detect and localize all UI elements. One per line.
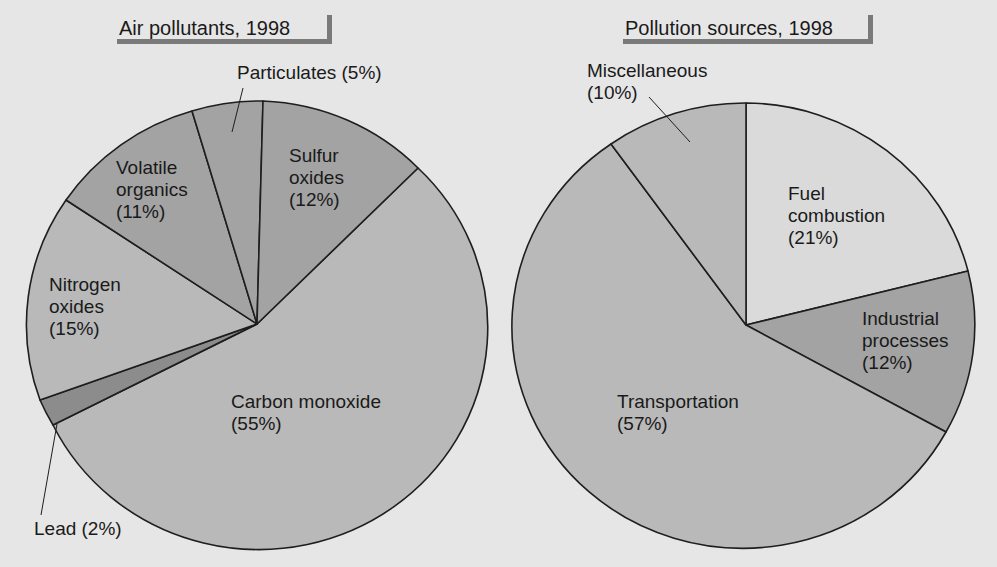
label-carbon-monoxide: Carbon monoxide (55%)	[231, 391, 381, 435]
label-line: Lead (2%)	[34, 518, 122, 540]
figure: Air pollutants, 1998 Pollution sources, …	[0, 0, 997, 567]
label-lead: Lead (2%)	[34, 518, 122, 540]
label-line: (10%)	[587, 82, 707, 104]
label-transportation: Transportation (57%)	[617, 391, 739, 435]
label-particulates: Particulates (5%)	[237, 62, 382, 84]
label-particulates-text: Particulates (5%)	[237, 62, 382, 84]
label-line: processes	[862, 330, 949, 352]
label-line: oxides	[289, 167, 344, 189]
label-line: oxides	[49, 296, 121, 318]
label-line: (21%)	[788, 227, 885, 249]
label-line: (57%)	[617, 413, 739, 435]
leader-lead	[41, 424, 57, 515]
label-line: (12%)	[289, 189, 344, 211]
label-line: Nitrogen	[49, 274, 121, 296]
chart-title-pollution-sources: Pollution sources, 1998	[623, 15, 873, 44]
label-industrial-processes: Industrial processes (12%)	[862, 308, 949, 374]
label-miscellaneous: Miscellaneous (10%)	[587, 60, 707, 104]
label-line: (15%)	[49, 318, 121, 340]
label-fuel-combustion: Fuel combustion (21%)	[788, 183, 885, 249]
label-line: Industrial	[862, 308, 949, 330]
label-line: Miscellaneous	[587, 60, 707, 82]
label-line: organics	[116, 179, 188, 201]
label-nitrogen-oxides: Nitrogen oxides (15%)	[49, 274, 121, 340]
label-line: Fuel	[788, 183, 885, 205]
chart-title-air-pollutants: Air pollutants, 1998	[117, 15, 332, 44]
label-line: Carbon monoxide	[231, 391, 381, 413]
label-line: (12%)	[862, 352, 949, 374]
label-line: Volatile	[116, 157, 188, 179]
label-line: (55%)	[231, 413, 381, 435]
label-sulfur-oxides: Sulfur oxides (12%)	[289, 145, 344, 211]
label-line: combustion	[788, 205, 885, 227]
label-line: Transportation	[617, 391, 739, 413]
label-volatile-organics: Volatile organics (11%)	[116, 157, 188, 223]
pie-charts-graphic	[0, 0, 997, 567]
label-line: Sulfur	[289, 145, 344, 167]
label-line: (11%)	[116, 201, 188, 223]
